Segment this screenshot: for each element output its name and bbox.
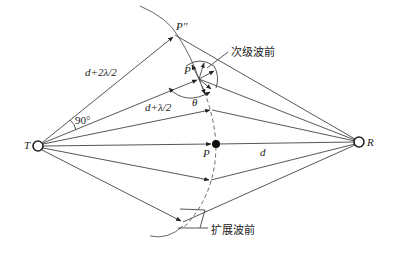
ray-t-to-lower (42, 150, 181, 221)
label-theta: θ (192, 96, 197, 108)
diagram-canvas (0, 0, 393, 254)
ray-t-to-mid-upper (43, 110, 210, 144)
ray-t-to-p-double-prime (43, 37, 173, 142)
transmitter-node (33, 141, 43, 151)
label-extended-wavefront: 扩展波前 (211, 221, 255, 237)
secondary-wavefront-pointer (207, 52, 228, 68)
point-p-dot (212, 140, 220, 148)
label-90-degrees: 90° (75, 114, 90, 126)
ray-p-to-r (216, 142, 354, 144)
ray-mid-upper-to-r (212, 110, 355, 141)
label-direct: d (260, 146, 266, 158)
ray-t-to-p-prime (43, 80, 197, 143)
label-t: T (24, 139, 30, 151)
receiver-node (354, 137, 364, 147)
theta-angle-arc (169, 88, 210, 98)
label-r: R (367, 136, 374, 148)
ray-t-to-p (43, 144, 211, 146)
wavefront-arc-dashed (183, 79, 216, 228)
label-path-2: d+2λ/2 (85, 66, 117, 78)
label-secondary-wavefront: 次级波前 (231, 43, 275, 59)
label-p-double-prime: P'' (176, 20, 187, 32)
label-path-1: d+λ/2 (145, 101, 171, 113)
ray-p-prime-to-r (199, 79, 355, 140)
ray-t-to-mid-lower (43, 148, 209, 180)
ray-mid-lower-to-r (211, 144, 355, 180)
label-p-prime: P' (184, 64, 193, 76)
label-p: P (203, 147, 210, 159)
